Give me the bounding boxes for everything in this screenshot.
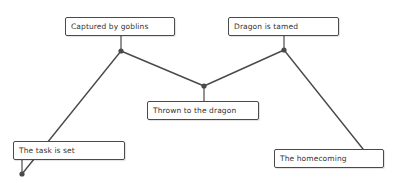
event-dot-tamed xyxy=(281,47,286,52)
event-label-thrown: Thrown to the dragon xyxy=(153,107,236,115)
event-label-tamed: Dragon is tamed xyxy=(234,23,298,31)
event-dot-task-set xyxy=(19,171,24,176)
event-label-captured: Captured by goblins xyxy=(71,23,148,31)
event-box-task-set: The task is set xyxy=(13,141,125,160)
event-dot-captured xyxy=(118,48,123,53)
story-arc-diagram: Captured by goblins Dragon is tamed Thro… xyxy=(0,0,396,183)
event-label-homecoming: The homecoming xyxy=(280,155,347,163)
event-label-task-set: The task is set xyxy=(19,147,75,155)
event-dot-thrown xyxy=(201,83,206,88)
event-box-tamed: Dragon is tamed xyxy=(228,17,339,36)
event-box-homecoming: The homecoming xyxy=(274,149,384,168)
event-box-captured: Captured by goblins xyxy=(65,17,175,36)
event-box-thrown: Thrown to the dragon xyxy=(147,101,259,120)
